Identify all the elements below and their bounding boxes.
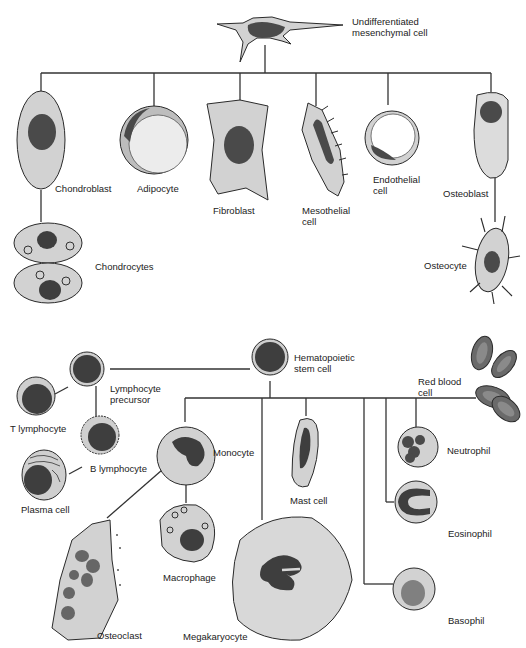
label-eosinophil: Eosinophil [448, 528, 492, 539]
lymphocyte-precursor-cell [70, 352, 104, 386]
label-basophil: Basophil [448, 615, 484, 626]
osteoblast-cell [474, 92, 508, 178]
label-osteoblast: Osteoblast [443, 188, 488, 199]
label-macrophage: Macrophage [163, 572, 216, 583]
mesothelial-cell [302, 103, 348, 196]
osteoclast-cell [52, 520, 121, 640]
hematopoietic-stem-cell [252, 339, 288, 375]
label-osteocyte: Osteocyte [424, 260, 467, 271]
chondroblast-cell [17, 91, 65, 189]
label-fibroblast: Fibroblast [213, 205, 255, 216]
label-mast-cell: Mast cell [290, 495, 327, 506]
label-osteoclast: Osteoclast [97, 630, 142, 641]
label-t-lymphocyte: T lymphocyte [10, 423, 66, 434]
neutrophil-cell [398, 427, 438, 467]
b-lymphocyte-cell [81, 416, 119, 454]
mesenchymal-cell [217, 17, 343, 62]
label-plasma-cell: Plasma cell [21, 504, 70, 515]
diagram-canvas [0, 0, 526, 648]
label-mesothelial: Mesothelial cell [302, 205, 350, 227]
cell-lineage-diagram: Undifferentiated mesenchymal cell Chondr… [0, 0, 526, 648]
label-b-lymphocyte: B lymphocyte [90, 463, 147, 474]
basophil-cell [393, 568, 435, 610]
mast-cell [292, 419, 318, 487]
osteocyte-cell [462, 216, 520, 304]
megakaryocyte-cell [232, 517, 352, 640]
endothelial-cell [365, 111, 419, 165]
red-blood-cells [468, 334, 525, 427]
label-adipocyte: Adipocyte [137, 183, 179, 194]
label-lymphocyte-precursor: Lymphocyte precursor [110, 383, 161, 405]
eosinophil-cell [395, 481, 437, 523]
chondrocytes-cells [14, 223, 82, 303]
adipocyte-cell [120, 106, 188, 174]
label-red-blood-cell: Red blood cell [418, 376, 461, 398]
label-hematopoietic: Hematopoietic stem cell [294, 352, 355, 374]
label-chondrocytes: Chondrocytes [95, 261, 154, 272]
label-neutrophil: Neutrophil [447, 445, 490, 456]
label-endothelial: Endothelial cell [373, 174, 420, 196]
label-megakaryocyte: Megakaryocyte [183, 631, 247, 642]
label-mesenchymal: Undifferentiated mesenchymal cell [352, 16, 428, 38]
plasma-cell [22, 450, 66, 500]
label-monocyte: Monocyte [213, 447, 254, 458]
monocyte-cell [157, 427, 215, 485]
t-lymphocyte-cell [17, 377, 55, 415]
macrophage-cell [160, 505, 215, 562]
fibroblast-cell [207, 100, 268, 200]
label-chondroblast: Chondroblast [55, 183, 112, 194]
